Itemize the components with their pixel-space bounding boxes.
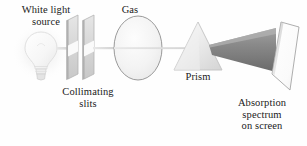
label-collimating-slits: Collimating slits: [46, 86, 130, 109]
label-gas: Gas: [105, 4, 155, 16]
label-prism: Prism: [173, 71, 223, 83]
projection-screen: [272, 22, 299, 90]
label-absorption-spectrum-on-screen: Absorption spectrum on screen: [219, 97, 305, 132]
label-white-light-source: White light source: [4, 4, 88, 27]
absorption-spectrum-diagram: White light source Gas Collimating slits…: [0, 0, 307, 146]
beam-segment-slits-to-gas: [93, 47, 115, 49]
